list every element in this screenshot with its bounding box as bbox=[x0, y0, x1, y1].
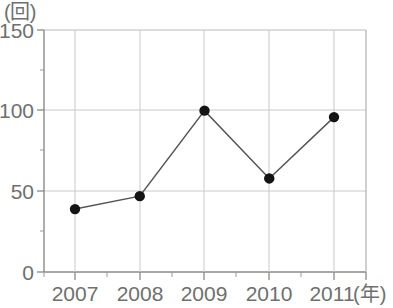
y-tick-label-0: 0 bbox=[22, 261, 34, 284]
data-point-2010 bbox=[264, 173, 274, 183]
data-point-2011 bbox=[329, 112, 339, 122]
y-tick-label-50: 50 bbox=[11, 180, 34, 203]
vertical-gridlines bbox=[75, 30, 366, 272]
x-tick-label-2009: 2009 bbox=[181, 282, 228, 305]
x-tick-label-2011: 2011 bbox=[309, 282, 354, 305]
data-point-2007 bbox=[70, 204, 80, 214]
x-axis-major-ticks bbox=[75, 272, 366, 280]
chart-plot-area: 150 100 50 0 2007 2008 2009 2010 2011 (年… bbox=[0, 0, 393, 308]
data-series-markers bbox=[70, 105, 339, 214]
data-point-2009 bbox=[199, 105, 209, 115]
horizontal-gridlines bbox=[44, 30, 366, 272]
line-chart: (回) bbox=[0, 0, 393, 308]
y-tick-label-100: 100 bbox=[0, 99, 34, 122]
x-tick-label-2008: 2008 bbox=[117, 282, 164, 305]
x-tick-label-2007: 2007 bbox=[52, 282, 99, 305]
x-tick-label-2010: 2010 bbox=[246, 282, 293, 305]
x-axis-minor-ticks bbox=[44, 272, 301, 277]
x-axis-unit-label: (年) bbox=[353, 283, 386, 305]
y-axis-major-ticks bbox=[37, 30, 44, 272]
y-tick-label-150: 150 bbox=[0, 19, 34, 42]
data-point-2008 bbox=[135, 191, 145, 201]
